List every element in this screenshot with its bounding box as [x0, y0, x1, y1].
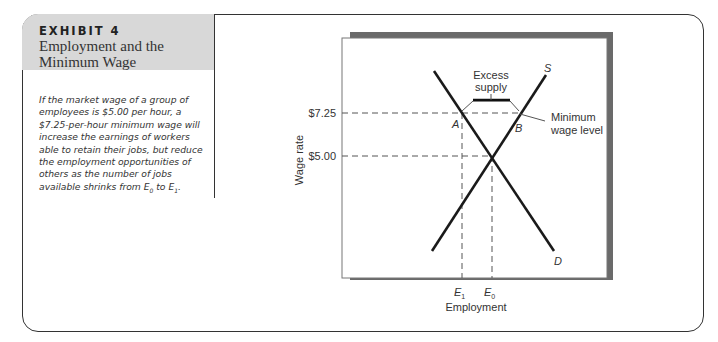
demand-label: D: [554, 255, 562, 267]
excess-label-2: supply: [475, 81, 507, 93]
min-wage-label-1: Minimum: [551, 111, 596, 123]
excess-label-1: Excess: [473, 69, 509, 81]
y-tick-7-25: $7.25: [308, 107, 336, 119]
x-tick-e1: E1: [454, 286, 465, 300]
y-axis-label: Wage rate: [293, 135, 305, 185]
chart: Excess supply Minimum wage level $7.25 $…: [0, 0, 718, 342]
point-b-label: B: [515, 122, 522, 134]
x-tick-e0: E0: [484, 286, 495, 300]
min-wage-label-2: wage level: [550, 124, 603, 136]
x-axis-label: Employment: [445, 301, 506, 313]
point-a-label: A: [451, 118, 459, 130]
supply-label: S: [544, 62, 552, 74]
y-tick-5-00: $5.00: [308, 150, 336, 162]
